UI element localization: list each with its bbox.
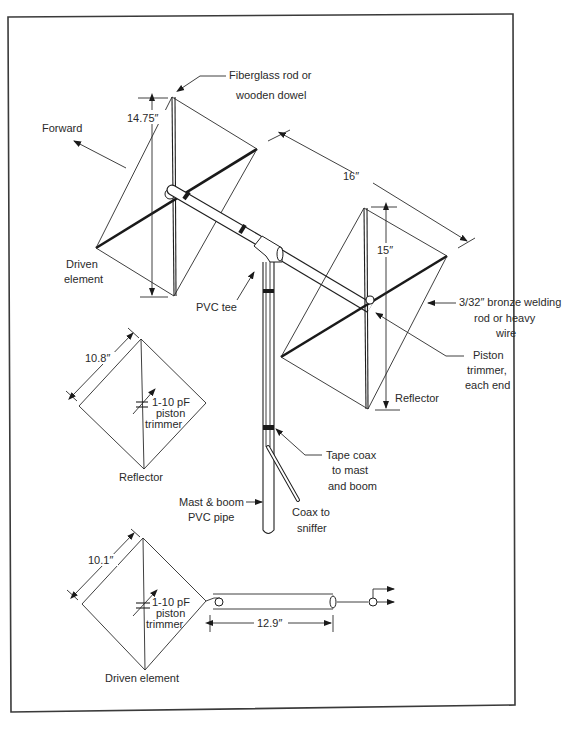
- driven-label-line2: element: [64, 273, 103, 285]
- boom-spacing-dimension: 16″: [268, 130, 475, 248]
- reflector-side-dimension: 10.8″: [85, 352, 110, 364]
- reflector-schematic: 10.8″ 1-10 pF piston trimmer Reflector: [66, 328, 206, 483]
- reflector-cap-line3: trimmer: [145, 418, 183, 430]
- tape-coax-leader: [276, 429, 322, 455]
- pvc-tee-leader: [237, 272, 254, 300]
- reflector-height-label: 15″: [377, 244, 393, 256]
- forward-arrow: [74, 141, 126, 168]
- fiberglass-leader: [182, 76, 226, 88]
- coax-feedline: 12.9″: [206, 589, 394, 632]
- tape-coax-label-line1: Tape coax: [326, 449, 377, 461]
- tape-coax-label-line2: to mast: [332, 464, 368, 476]
- pvc-tee: [254, 236, 283, 262]
- mast-label-line1: Mast & boom: [179, 496, 244, 508]
- reflector-main-label: Reflector: [395, 392, 439, 404]
- piston-label-line2: trimmer,: [467, 364, 507, 376]
- reflector-height-dimension: 15″: [371, 207, 400, 410]
- bronze-label-line3: wire: [495, 327, 516, 339]
- driven-label-line1: Driven: [66, 258, 98, 270]
- bronze-label-line1: 3/32″ bronze welding: [459, 296, 561, 308]
- fiberglass-label-line1: Fiberglass rod or: [229, 69, 312, 81]
- forward-label: Forward: [42, 122, 82, 134]
- pvc-tee-label: PVC tee: [196, 301, 237, 313]
- mast-label-line2: PVC pipe: [188, 511, 234, 523]
- driven-side-dimension: 10.1″: [88, 554, 113, 566]
- tape-coax-label-line3: and boom: [328, 480, 377, 492]
- coax-label-line1: Coax to: [292, 506, 330, 518]
- boom-spacing-label: 16″: [343, 170, 359, 182]
- driven-height-dimension: 14.75″: [125, 98, 170, 297]
- piston-leader: [376, 313, 464, 356]
- coax-label-line2: sniffer: [297, 522, 327, 534]
- reflector-caption: Reflector: [119, 471, 163, 483]
- antenna-diagram: 14.75″ Forward Fiberglass rod or wooden …: [0, 0, 583, 730]
- mast: [263, 262, 298, 534]
- driven-cap-line3: trimmer: [146, 618, 184, 630]
- piston-label-line1: Piston: [473, 349, 504, 361]
- driven-schematic: 10.1″ 1-10 pF piston trimmer Driven elem…: [67, 529, 206, 684]
- connector-icon: [369, 598, 377, 606]
- driven-caption: Driven element: [105, 672, 179, 684]
- piston-label-line3: each end: [465, 379, 510, 391]
- bronze-label-line2: rod or heavy: [474, 312, 536, 324]
- feedline-length-label: 12.9″: [257, 617, 282, 629]
- driven-height-label: 14.75″: [127, 112, 159, 124]
- fiberglass-label-line2: wooden dowel: [235, 89, 306, 101]
